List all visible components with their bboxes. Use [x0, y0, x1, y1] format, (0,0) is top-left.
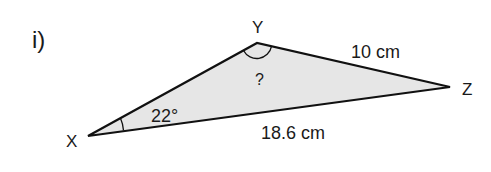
- vertex-label-y: Y: [252, 18, 263, 37]
- side-label-yz: 10 cm: [351, 42, 400, 62]
- side-label-xz: 18.6 cm: [261, 123, 325, 143]
- triangle-diagram: i) X Y Z 22° ? 10 cm 18.6 cm: [0, 0, 491, 172]
- angle-label-y: ?: [255, 71, 264, 88]
- vertex-label-x: X: [66, 132, 77, 151]
- vertex-label-z: Z: [462, 80, 472, 99]
- question-label: i): [32, 26, 45, 53]
- angle-label-x: 22°: [151, 106, 178, 126]
